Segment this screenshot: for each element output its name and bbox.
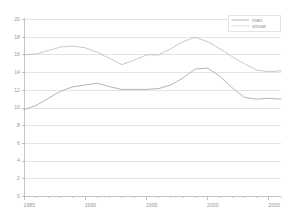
- chart-legend: manvrouw: [228, 15, 280, 31]
- grid-lines: [24, 20, 281, 179]
- y-tick-label: 0: [17, 193, 20, 199]
- y-tick-label: 16: [14, 51, 20, 57]
- legend-label-vrouw: vrouw: [252, 23, 266, 29]
- y-tick-label: 2: [17, 175, 20, 181]
- x-tick-label: 2000: [207, 202, 219, 208]
- y-tick-label: 18: [14, 34, 20, 40]
- series-line-man: [24, 68, 281, 110]
- chart-axes: [24, 18, 281, 197]
- x-tick-label: 1985: [24, 202, 36, 208]
- x-tick-label: 2005: [268, 202, 280, 208]
- y-tick-label: 14: [14, 69, 20, 75]
- y-tick-label: 6: [17, 140, 20, 146]
- y-tick-label: 20: [14, 16, 20, 22]
- x-tick-label: 1990: [85, 202, 97, 208]
- series-line-vrouw: [24, 37, 281, 72]
- y-tick-label: 4: [17, 157, 20, 163]
- y-tick-label: 10: [14, 104, 20, 110]
- chart-plot-area: 0246810121416182019851990199520002005man…: [0, 0, 288, 221]
- line-chart: 0246810121416182019851990199520002005man…: [0, 0, 288, 221]
- data-series-group: [24, 37, 281, 110]
- x-axis-ticks: 19851990199520002005: [24, 197, 282, 208]
- y-tick-label: 12: [14, 87, 20, 93]
- y-axis-ticks: 02468101214161820: [14, 16, 24, 199]
- x-tick-label: 1995: [146, 202, 158, 208]
- y-tick-label: 8: [17, 122, 20, 128]
